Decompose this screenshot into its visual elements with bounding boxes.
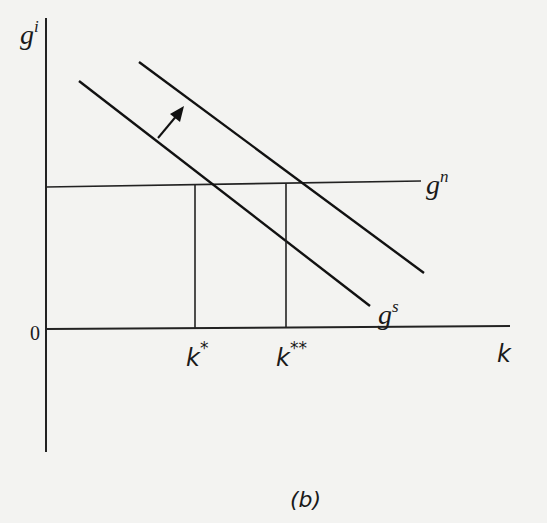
gn-line <box>46 181 421 187</box>
gn-label: gn <box>426 168 449 199</box>
diagram-canvas <box>0 0 547 523</box>
k-double-star-label: k** <box>276 340 307 370</box>
gs-label: gs <box>378 298 399 329</box>
origin-label: 0 <box>30 322 40 345</box>
figure-caption: (b) <box>290 487 321 512</box>
gs-line-initial <box>79 81 370 306</box>
shift-arrow-icon <box>158 106 184 138</box>
y-axis-label: gi <box>20 18 39 49</box>
k-star-label: k* <box>186 340 208 370</box>
gs-line-shifted <box>139 62 424 273</box>
x-axis-label: k <box>497 342 511 366</box>
x-axis <box>46 326 510 329</box>
